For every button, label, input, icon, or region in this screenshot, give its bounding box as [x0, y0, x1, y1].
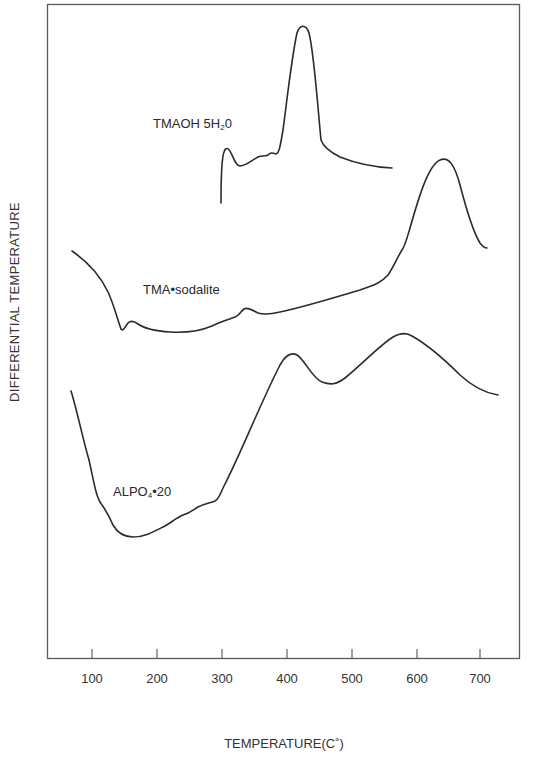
plot-frame: [48, 5, 520, 659]
x-tick-400: 400: [276, 671, 298, 686]
alpo-label-tail: •20: [152, 484, 171, 499]
series-tmaoh-curve: [221, 26, 392, 203]
x-tick-100: 100: [81, 671, 103, 686]
series-tma-sodalite-curve: [72, 159, 487, 332]
tmaoh-label-tail: 0: [225, 116, 232, 131]
dta-chart: [0, 0, 535, 771]
x-tick-200: 200: [146, 671, 168, 686]
x-tick-500: 500: [341, 671, 363, 686]
series-alpo4-20-curve: [71, 333, 498, 537]
x-tick-700: 700: [469, 671, 491, 686]
tmaoh-label-text: TMAOH 5H: [153, 116, 220, 131]
y-axis-label: DIFFERENTIAL TEMPERATURE: [7, 202, 22, 402]
series-label-alpo4-20: ALPO4•20: [113, 484, 171, 500]
series-label-tma-sodalite: TMA•sodalite: [143, 282, 220, 297]
x-tick-300: 300: [211, 671, 233, 686]
x-axis-ticks: [92, 649, 480, 658]
x-axis-label: TEMPERATURE(C˚): [224, 736, 344, 751]
series-label-tmaoh: TMAOH 5H20: [153, 116, 232, 132]
x-tick-600: 600: [406, 671, 428, 686]
alpo-label-text: ALPO: [113, 484, 148, 499]
